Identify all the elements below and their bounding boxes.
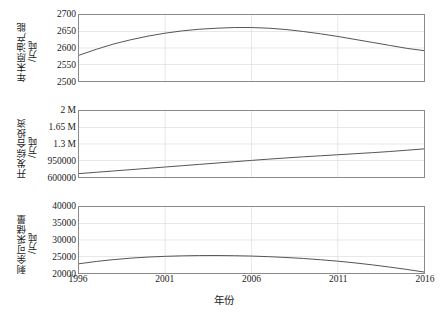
y-tick-label: 35000 xyxy=(52,218,76,228)
y-axis-unit-text-0: /万吨 xyxy=(28,41,37,62)
series-svg-2 xyxy=(79,207,424,273)
y-tick-label: 1.65 M xyxy=(49,122,76,132)
y-tick-label: 40000 xyxy=(52,201,76,211)
y-tick-label: 1.3 M xyxy=(53,139,76,149)
x-tick-label: 1996 xyxy=(69,274,88,284)
x-tick-label: 2016 xyxy=(416,274,435,284)
chart-panel-development-investment: 开发综合投资 /万吨 6000009500001.3 M1.65 M2 M xyxy=(0,100,447,196)
y-tick-labels-0: 25002550260026502700 xyxy=(38,4,78,100)
x-tick-label: 2011 xyxy=(329,274,348,284)
y-axis-title-text-2: 剩余可采储量 xyxy=(17,214,27,274)
y-tick-label: 2 M xyxy=(60,105,76,115)
plot-area-wrapper-1 xyxy=(78,100,425,196)
y-axis-unit-text-2: /万吨 xyxy=(28,233,37,254)
y-tick-label: 600000 xyxy=(48,173,77,183)
y-tick-label: 30000 xyxy=(52,235,76,245)
plot-area-wrapper-0 xyxy=(78,4,425,100)
y-tick-label: 2500 xyxy=(57,77,76,87)
y-tick-labels-1: 6000009500001.3 M1.65 M2 M xyxy=(38,100,78,196)
x-tick-labels: 19962001200620112016 xyxy=(78,274,425,288)
series-svg-0 xyxy=(79,15,424,81)
y-tick-label: 25000 xyxy=(52,252,76,262)
series-svg-1 xyxy=(79,111,424,177)
y-axis-unit-text-1: /万吨 xyxy=(28,137,37,158)
multi-panel-line-chart-figure: 年末原油产能 /万吨 25002550260026502700 开发综合投资 /… xyxy=(0,0,447,315)
plot-area-1 xyxy=(78,110,425,178)
x-tick-label: 2001 xyxy=(155,274,174,284)
y-tick-label: 2550 xyxy=(57,60,76,70)
x-tick-label: 2006 xyxy=(242,274,261,284)
y-axis-title-text-0: 年末原油产能 xyxy=(17,22,27,82)
chart-panel-crude-oil-capacity: 年末原油产能 /万吨 25002550260026502700 xyxy=(0,4,447,100)
y-tick-label: 2650 xyxy=(57,26,76,36)
plot-area-0 xyxy=(78,14,425,82)
plot-area-2 xyxy=(78,206,425,274)
y-tick-label: 950000 xyxy=(48,156,77,166)
y-tick-label: 2600 xyxy=(57,43,76,53)
y-axis-title-text-1: 开发综合投资 xyxy=(17,118,27,178)
y-tick-label: 2700 xyxy=(57,9,76,19)
x-axis-title: 年份 xyxy=(0,292,447,307)
